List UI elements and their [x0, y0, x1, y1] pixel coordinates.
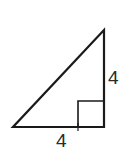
horizontal-side-length-label: 4: [56, 131, 67, 150]
right-angle-marker-icon: [78, 101, 104, 127]
vertical-side-length-label: 4: [108, 68, 119, 87]
right-triangle-shape: [13, 30, 104, 127]
geometry-figure: 4 4: [0, 0, 129, 152]
